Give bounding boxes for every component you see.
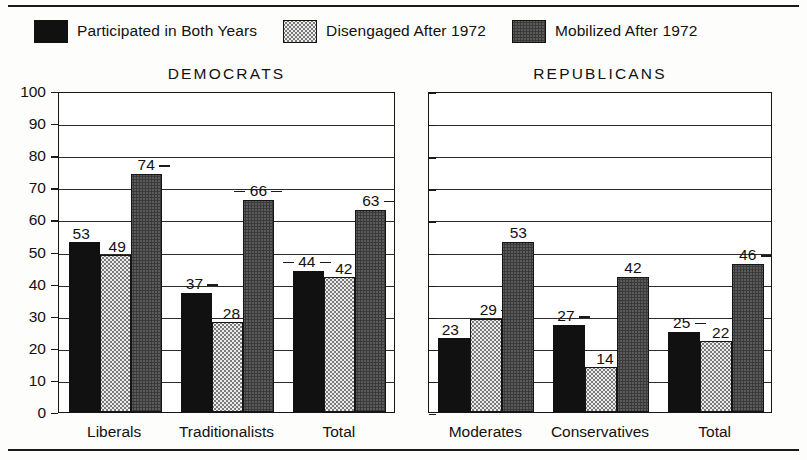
y-axis-tick [429,382,436,383]
y-axis-tick-label: 40 [29,277,46,293]
chart-legend: Participated in Both YearsDisengaged Aft… [34,16,723,46]
bar-value-label: 29 [480,301,497,317]
y-axis-tick [429,414,436,415]
panel-republicans: REPUBLICANS232953271442252246 [428,92,772,413]
bar-value-label: 53 [510,224,527,240]
y-axis-tick [51,349,58,350]
y-axis-tick [429,254,436,255]
label-leader-line [234,191,245,192]
bar [324,277,355,412]
bar-value-label: 53 [73,225,90,241]
legend-label: Mobilized After 1972 [555,22,697,40]
bar-group: 271442 [544,93,659,412]
bar-value-label: 37 [186,276,203,292]
bar [243,200,274,412]
y-axis-tick [51,124,58,125]
bar-value-label: 27 [557,308,574,324]
legend-swatch-participated [34,20,68,43]
y-axis-tick [429,286,436,287]
legend-label: Participated in Both Years [77,22,257,40]
bar-value-label: 66 [250,183,267,199]
legend-item-2: Mobilized After 1972 [512,20,697,43]
y-axis-tick [51,285,58,286]
bar [585,367,617,412]
bar [212,322,243,412]
bar-group: 372866 [171,93,283,412]
legend-item-0: Participated in Both Years [34,20,257,43]
legend-swatch-mobilized [512,20,546,43]
label-leader-line [695,323,706,324]
y-axis-tick-label: 10 [29,373,46,389]
label-leader-line [761,255,772,256]
y-axis-tick [51,220,58,221]
y-axis-tick [429,189,436,190]
bar [470,319,502,412]
legend-label: Disengaged After 1972 [326,22,486,40]
y-axis-tick [51,156,58,157]
bar-value-label: 42 [624,260,641,276]
y-axis-tick [51,92,58,93]
legend-item-1: Disengaged After 1972 [283,20,486,43]
bar-value-label: 49 [109,238,126,254]
label-leader-line [384,201,395,202]
y-axis-tick [429,125,436,126]
y-axis-tick [429,93,436,94]
plot-area: 534974372866444263 [58,92,395,413]
y-axis-tick-label: 0 [37,405,46,421]
x-axis-category-label: Moderates [449,423,522,441]
label-leader-line [207,284,218,285]
bar-group: 534974 [59,93,171,412]
y-axis-tick [51,317,58,318]
y-axis-tick-label: 80 [29,148,46,164]
bar-group: 232953 [429,93,544,412]
bar [668,332,700,412]
bar-value-label: 14 [596,351,613,367]
bar-value-label: 25 [673,314,690,330]
label-leader-line [320,262,331,263]
label-leader-line [283,262,294,263]
bar [181,293,212,412]
y-axis-tick [51,381,58,382]
bar-group: 252246 [658,93,773,412]
y-axis-tick [429,221,436,222]
figure-bottom-rule [8,449,799,451]
bar [732,264,764,412]
y-axis-tick-label: 100 [20,84,46,100]
chart-figure: Participated in Both YearsDisengaged Aft… [0,0,807,460]
label-leader-line [271,191,282,192]
y-axis-tick [51,413,58,414]
y-axis-tick [51,253,58,254]
legend-swatch-disengaged [283,20,317,43]
y-axis-tick [51,188,58,189]
bar [700,341,732,412]
bar-group: 444263 [284,93,396,412]
y-axis-tick-label: 20 [29,341,46,357]
bar-value-label: 74 [138,157,155,173]
bar-value-label: 22 [712,325,729,341]
y-axis-tick-label: 50 [29,245,46,261]
bar [617,277,649,412]
bar-value-label: 28 [223,306,240,322]
bar-value-label: 44 [298,253,315,269]
bar [293,271,324,412]
y-axis-tick [429,350,436,351]
plot-area: 232953271442252246 [428,92,772,413]
figure-top-rule [8,5,799,7]
bar [355,210,386,412]
y-axis-tick-label: 30 [29,309,46,325]
y-axis: 1009080706050403020100 [0,92,58,413]
bar-value-label: 23 [442,322,459,338]
y-axis-tick-label: 90 [29,116,46,132]
bar-value-label: 42 [335,261,352,277]
bar-value-label: 46 [739,247,756,263]
x-axis-category-label: Conservatives [551,423,649,441]
bar [100,255,131,412]
panel-title: REPUBLICANS [428,65,772,83]
label-leader-line [159,165,170,166]
y-axis-tick [429,157,436,158]
y-axis-tick-label: 60 [29,213,46,229]
panel-democrats: DEMOCRATS534974372866444263 [58,92,395,413]
bar [502,242,534,412]
label-leader-line [579,316,590,317]
bar [69,242,100,412]
